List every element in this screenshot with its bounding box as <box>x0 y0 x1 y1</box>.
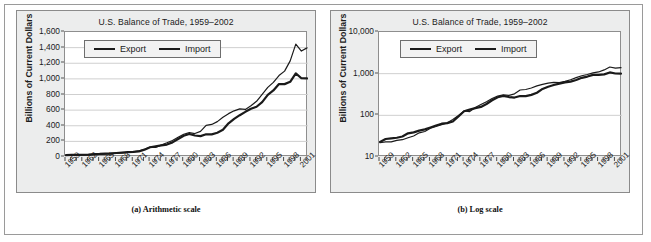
y-tick-label: 1,200 <box>39 57 60 67</box>
legend-label-import-a: Import <box>185 44 211 54</box>
plot-wrapper-b: 101001,00010,000 19591962196519681971197… <box>378 31 621 156</box>
legend-entry-import-b: Import <box>475 44 527 54</box>
figure-root: U.S. Balance of Trade, 1959–2002 Billion… <box>0 0 651 242</box>
caption-arithmetic: (a) Arithmetic scale <box>16 205 316 214</box>
legend-a: Export Import <box>84 40 221 58</box>
x-axis-ticks-b: 1959196219651968197119741977198019831986… <box>378 157 621 203</box>
y-tick-mark <box>375 31 378 32</box>
y-tick-mark <box>61 93 64 94</box>
legend-line-export-icon <box>94 48 115 50</box>
caption-log: (b) Log scale <box>330 205 630 214</box>
chart-title-b: U.S. Balance of Trade, 1959–2002 <box>331 17 629 27</box>
y-tick-mark <box>61 77 64 78</box>
y-tick-mark <box>61 109 64 110</box>
y-axis-label-a: Billions of Current Dollars <box>24 9 34 127</box>
legend-line-import-icon <box>159 48 180 49</box>
y-tick-label: 200 <box>46 135 60 145</box>
y-tick-label: 10,000 <box>348 26 374 36</box>
y-tick-label: 1,400 <box>39 42 60 52</box>
y-tick-mark <box>375 72 378 73</box>
series-line-export <box>66 73 307 155</box>
series-line-export <box>380 72 621 141</box>
y-tick-mark <box>61 62 64 63</box>
legend-line-export-icon <box>410 48 431 50</box>
chart-title-a: U.S. Balance of Trade, 1959–2002 <box>17 17 315 27</box>
series-line-import <box>66 44 307 155</box>
y-tick-mark <box>61 46 64 47</box>
y-tick-label: 0 <box>55 151 60 161</box>
y-tick-label: 400 <box>46 120 60 130</box>
chart-panel-arithmetic: U.S. Balance of Trade, 1959–2002 Billion… <box>16 10 316 193</box>
plot-wrapper-a: 02004006008001,0001,2001,4001,600 195919… <box>64 31 307 156</box>
y-tick-label: 10 <box>365 151 374 161</box>
legend-b: Export Import <box>400 40 537 58</box>
y-tick-mark <box>375 114 378 115</box>
chart-panel-log: U.S. Balance of Trade, 1959–2002 Billion… <box>330 10 630 193</box>
y-tick-mark <box>61 31 64 32</box>
y-axis-label-b: Billions of Current Dollars <box>338 9 348 127</box>
y-tick-mark <box>61 124 64 125</box>
y-tick-label: 1,000 <box>353 68 374 78</box>
y-tick-mark <box>61 140 64 141</box>
legend-label-export-b: Export <box>436 44 462 54</box>
legend-line-import-icon <box>475 48 496 49</box>
x-axis-ticks-a: 1959196219651968197119741977198019831986… <box>64 157 307 203</box>
y-tick-label: 1,600 <box>39 26 60 36</box>
y-tick-label: 100 <box>360 109 374 119</box>
y-tick-label: 600 <box>46 104 60 114</box>
y-tick-label: 800 <box>46 89 60 99</box>
y-tick-label: 1,000 <box>39 73 60 83</box>
legend-entry-import-a: Import <box>159 44 211 54</box>
legend-entry-export-b: Export <box>410 44 462 54</box>
legend-label-export-a: Export <box>120 44 146 54</box>
legend-label-import-b: Import <box>501 44 527 54</box>
legend-entry-export-a: Export <box>94 44 146 54</box>
